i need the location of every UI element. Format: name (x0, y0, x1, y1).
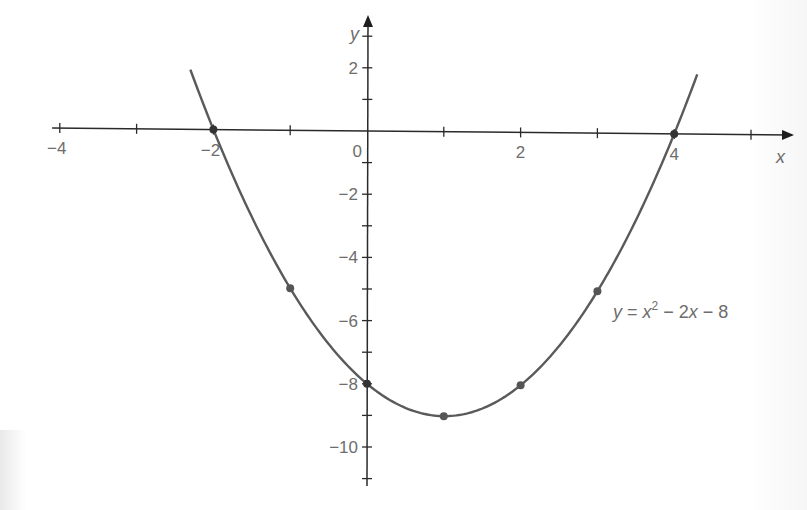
y-tick-label: −8 (339, 375, 358, 394)
data-point (593, 287, 601, 295)
data-point (440, 412, 448, 420)
y-tick-label: −6 (339, 312, 358, 331)
equation-label: y = x2 − 2x − 8 (611, 299, 728, 322)
eq-mid: − 2 (658, 302, 689, 322)
data-point (209, 126, 217, 134)
x-axis (52, 128, 792, 135)
x-tick-label: 2 (516, 143, 525, 162)
y-axis-label: y (348, 24, 360, 44)
data-point (286, 284, 294, 292)
y-tick-label: 2 (349, 59, 358, 78)
x-axis-label: x (775, 147, 786, 167)
tick-marks (60, 36, 751, 478)
x-tick-label: −4 (47, 139, 66, 158)
parabola-curve (190, 70, 697, 417)
x-tick-label: −2 (201, 141, 220, 160)
eq-equals: = (622, 302, 643, 322)
y-tick-label: −2 (339, 185, 358, 204)
data-point (670, 130, 678, 138)
eq-tail: − 8 (698, 302, 729, 322)
data-point (363, 380, 371, 388)
x-tick-label: 4 (669, 145, 678, 164)
x-tick-label: 0 (353, 142, 362, 161)
y-tick-label: −4 (339, 248, 358, 267)
axes (52, 17, 792, 486)
data-point (517, 381, 525, 389)
y-tick-label: −10 (329, 438, 358, 457)
parabola-plot: −4−20242−2−4−6−8−10 x y y = x2 − 2x − 8 (0, 0, 807, 510)
